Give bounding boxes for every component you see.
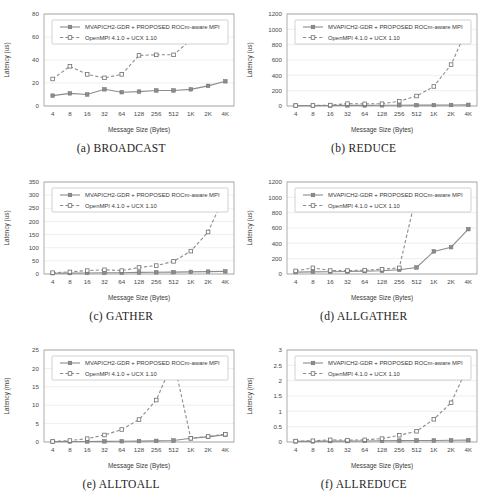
y-tick-label: 2 (278, 377, 282, 384)
y-axis-title: Latency (us) (246, 210, 254, 245)
data-point-marker (172, 260, 176, 264)
x-tick-label: 16 (84, 110, 91, 117)
x-tick-label: 512 (169, 110, 180, 117)
y-tick-label: 20 (32, 79, 39, 86)
x-tick-label: 16 (84, 446, 91, 453)
data-point-marker (432, 439, 436, 443)
data-point-marker (120, 90, 124, 94)
panel-b: 020040060080010001200481632641282565121K… (243, 0, 485, 168)
x-tick-label: 8 (311, 278, 315, 285)
x-tick-label: 16 (326, 278, 333, 285)
x-tick-label: 512 (169, 446, 180, 453)
y-tick-label: 15 (32, 383, 39, 390)
data-point-marker (103, 440, 107, 444)
y-tick-label: 300 (29, 191, 40, 198)
x-tick-label: 2K (205, 446, 213, 453)
x-tick-label: 128 (134, 446, 145, 453)
legend-label-2: OpenMPI 4.1.0 + UCX 1.10 (85, 203, 158, 209)
data-point-marker (414, 439, 418, 443)
legend-marker-1 (311, 193, 315, 197)
data-point-marker (380, 437, 384, 441)
x-tick-label: 512 (411, 446, 422, 453)
data-point-marker (363, 438, 367, 442)
y-tick-label: 100 (29, 244, 40, 251)
data-point-marker (172, 53, 176, 57)
data-point-marker (449, 439, 453, 443)
chart-svg-e: 0510152025481632641282565121K2K4KMessage… (0, 336, 242, 476)
data-point-marker (68, 439, 72, 443)
data-point-marker (189, 249, 193, 253)
x-tick-label: 4K (222, 446, 230, 453)
x-tick-label: 1K (187, 278, 195, 285)
y-tick-label: 50 (32, 257, 39, 264)
y-tick-label: 60 (32, 33, 39, 40)
x-tick-label: 16 (326, 446, 333, 453)
data-point-marker (397, 266, 401, 270)
legend-label-1: MVAPICH2-GDR + PROPOSED ROCm-aware MPI (85, 24, 220, 30)
data-point-marker (137, 418, 141, 422)
data-point-marker (137, 54, 141, 58)
x-tick-label: 1K (430, 446, 438, 453)
legend-label-1: MVAPICH2-GDR + PROPOSED ROCm-aware MPI (328, 192, 463, 198)
y-tick-label: 800 (271, 41, 282, 48)
x-tick-label: 128 (377, 278, 388, 285)
y-tick-label: 0 (278, 102, 282, 109)
x-axis-title: Message Size (Bytes) (351, 294, 413, 302)
legend-marker-2 (311, 372, 315, 376)
x-tick-label: 64 (361, 110, 368, 117)
data-point-marker (311, 270, 315, 274)
data-point-marker (207, 435, 211, 439)
x-tick-label: 4 (51, 278, 55, 285)
data-point-marker (224, 270, 228, 274)
y-tick-label: 400 (271, 240, 282, 247)
x-tick-label: 256 (151, 278, 162, 285)
y-tick-label: 0 (278, 438, 282, 445)
legend-label-2: OpenMPI 4.1.0 + UCX 1.10 (85, 35, 158, 41)
data-point-marker (155, 264, 159, 268)
data-point-marker (449, 63, 453, 67)
data-point-marker (397, 103, 401, 107)
data-point-marker (432, 103, 436, 107)
legend-marker-1 (68, 361, 72, 365)
legend-label-2: OpenMPI 4.1.0 + UCX 1.10 (328, 203, 401, 209)
y-tick-label: 600 (271, 56, 282, 63)
panel-d-caption: (d) ALLGATHER (320, 310, 407, 322)
y-tick-label: 40 (32, 56, 39, 63)
data-point-marker (120, 269, 124, 273)
x-tick-label: 4K (222, 278, 230, 285)
data-point-marker (432, 418, 436, 422)
data-point-marker (51, 440, 55, 444)
panel-c: 050100150200250300350481632641282565121K… (0, 168, 243, 336)
y-tick-label: 80 (32, 10, 39, 17)
x-axis-title: Message Size (Bytes) (108, 126, 170, 134)
x-tick-label: 4K (464, 446, 472, 453)
data-point-marker (172, 270, 176, 274)
x-tick-label: 512 (411, 110, 422, 117)
panel-e: 0510152025481632641282565121K2K4KMessage… (0, 336, 243, 504)
data-point-marker (224, 432, 228, 436)
data-point-marker (86, 269, 90, 273)
x-tick-label: 4 (51, 446, 55, 453)
x-tick-label: 32 (101, 278, 108, 285)
data-point-marker (120, 73, 124, 77)
data-point-marker (155, 439, 159, 443)
y-tick-label: 3 (278, 346, 282, 353)
data-point-marker (137, 266, 141, 270)
data-point-marker (103, 88, 107, 92)
x-tick-label: 128 (377, 446, 388, 453)
data-point-marker (414, 103, 418, 107)
data-point-marker (294, 269, 298, 273)
data-point-marker (449, 245, 453, 249)
legend-label-2: OpenMPI 4.1.0 + UCX 1.10 (85, 371, 158, 377)
legend-marker-2 (68, 36, 72, 40)
data-point-marker (189, 88, 193, 92)
x-tick-label: 1K (187, 110, 195, 117)
x-axis-title: Message Size (Bytes) (108, 462, 170, 470)
data-point-marker (345, 102, 349, 106)
data-point-marker (137, 271, 141, 275)
data-point-marker (311, 439, 315, 443)
legend-marker-1 (68, 193, 72, 197)
data-point-marker (68, 65, 72, 69)
data-point-marker (137, 90, 141, 94)
data-point-marker (155, 398, 159, 402)
